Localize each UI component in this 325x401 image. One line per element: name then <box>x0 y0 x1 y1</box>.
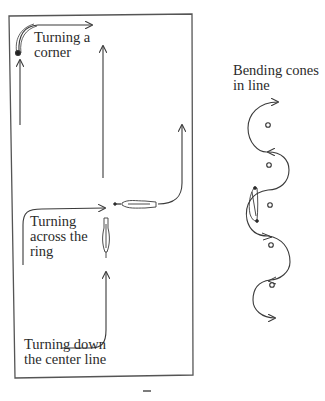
cone-icon <box>267 163 272 168</box>
label-turning-across: Turning across the ring <box>30 214 88 259</box>
bending-cones-path <box>246 102 290 318</box>
cones <box>266 123 275 288</box>
horse-horizontal-icon <box>114 201 156 209</box>
cone-icon <box>269 243 274 248</box>
cone-icon <box>270 283 275 288</box>
horse-vertical-icon <box>103 218 110 258</box>
cone-icon <box>268 203 273 208</box>
label-turning-corner: Turning a corner <box>34 30 90 60</box>
turning-across-exit-path <box>158 125 182 204</box>
cone-icon <box>266 123 271 128</box>
label-bending-cones: Bending cones in line <box>233 63 319 93</box>
horse-serpentine-icon <box>249 187 258 223</box>
label-turning-down: Turning down the center line <box>24 337 106 367</box>
arena-border <box>9 14 193 378</box>
